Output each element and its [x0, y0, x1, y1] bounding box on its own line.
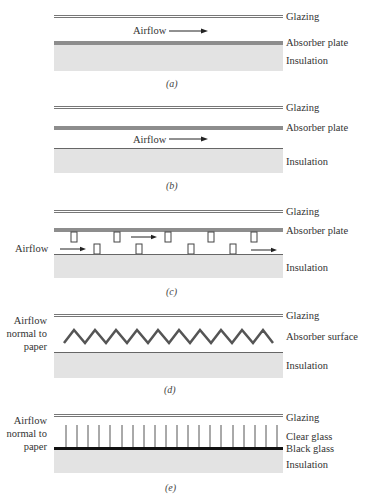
clear-glass-label: Clear glass: [286, 431, 332, 443]
caption-e: (e): [165, 482, 176, 493]
clear-glass-fins: [0, 0, 368, 503]
insulation-label: Insulation: [286, 459, 328, 471]
black-glass-label: Black glass: [286, 443, 334, 455]
insulation-layer: [54, 450, 283, 473]
